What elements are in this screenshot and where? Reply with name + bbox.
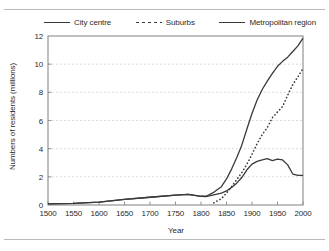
figure-container: City centre Suburbs Metropolitan region …	[0, 0, 329, 251]
series-line-city-centre	[48, 159, 303, 204]
x-tick-label: 1900	[244, 209, 262, 218]
y-axis-title: Numbers of residents (millions)	[8, 57, 17, 177]
series-line-metropolitan-region	[48, 38, 303, 204]
axis-tick-labels: 1500155016001650170017501800185019001950…	[35, 32, 313, 218]
x-axis-title: Year	[48, 226, 304, 235]
series-line-suburbs	[214, 68, 303, 203]
y-tick-label: 8	[39, 88, 44, 97]
y-tick-label: 4	[39, 145, 44, 154]
gridlines	[48, 64, 303, 177]
x-tick-label: 2000	[295, 209, 313, 218]
y-tick-label: 12	[35, 32, 44, 41]
y-tick-label: 6	[39, 117, 44, 126]
x-tick-label: 1750	[167, 209, 185, 218]
x-tick-label: 1650	[116, 209, 134, 218]
x-tick-label: 1800	[193, 209, 211, 218]
y-tick-label: 10	[35, 60, 44, 69]
data-series	[48, 38, 303, 204]
x-tick-label: 1950	[269, 209, 287, 218]
line-chart-svg: 1500155016001650170017501800185019001950…	[0, 0, 329, 251]
plot-area-wrapper: 1500155016001650170017501800185019001950…	[0, 0, 329, 251]
x-tick-label: 1500	[40, 209, 58, 218]
x-tick-label: 1850	[218, 209, 236, 218]
x-tick-label: 1600	[91, 209, 109, 218]
y-tick-label: 2	[39, 173, 44, 182]
x-tick-label: 1700	[142, 209, 160, 218]
x-tick-label: 1550	[65, 209, 83, 218]
